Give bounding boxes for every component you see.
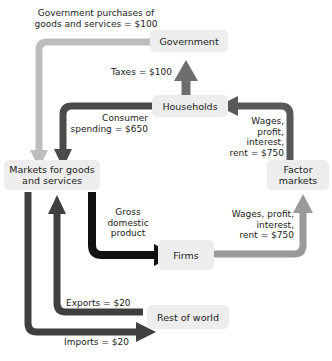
node-firms: Firms xyxy=(158,240,214,270)
flow-label-gross-domestic-product: Gross domestic product xyxy=(100,207,156,239)
arrow-government-purchases xyxy=(39,42,166,152)
circular-flow-diagram: Government Households Markets for goods … xyxy=(0,0,332,361)
flow-label-consumer-spending: Consumer spending = $650 xyxy=(64,113,148,134)
node-rest-of-world: Rest of world xyxy=(147,305,229,329)
flow-label-wages-from-firms: Wages, profit, interest, rent = $750 xyxy=(216,209,294,241)
node-factor-markets-label: Factor markets xyxy=(272,164,324,186)
node-government: Government xyxy=(150,30,228,52)
node-markets-for-goods-and-services: Markets for goods and services xyxy=(4,160,100,190)
flow-label-government-purchases: Government purchases of goods and servic… xyxy=(16,8,176,29)
node-households: Households xyxy=(152,95,228,117)
node-markets-for-goods-and-services-label: Markets for goods and services xyxy=(9,164,95,186)
arrow-wages-from-firms-head xyxy=(293,194,313,213)
node-government-label: Government xyxy=(159,36,218,47)
node-rest-of-world-label: Rest of world xyxy=(157,312,219,323)
arrow-taxes-head xyxy=(174,60,198,81)
node-households-label: Households xyxy=(162,101,217,112)
flow-label-taxes: Taxes = $100 xyxy=(76,67,172,78)
flow-label-exports: Exports = $20 xyxy=(66,298,148,309)
node-firms-label: Firms xyxy=(173,250,198,261)
flow-label-wages-to-households: Wages, profit, interest, rent = $750 xyxy=(216,116,284,158)
node-factor-markets: Factor markets xyxy=(267,160,329,190)
arrow-exports-head xyxy=(48,195,66,214)
flow-label-imports: Imports = $20 xyxy=(64,337,146,348)
